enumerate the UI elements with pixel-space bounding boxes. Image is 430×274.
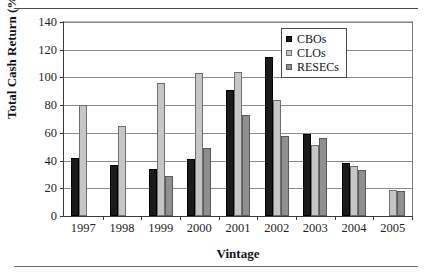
- x-tick-label: 2004: [342, 222, 367, 235]
- figure: Total Cash Return (%) 020406080100120140…: [0, 0, 430, 274]
- y-tick-label: 40: [45, 154, 58, 167]
- gridline: [64, 22, 412, 23]
- x-tick-mark: [219, 216, 220, 220]
- x-tick-label: 1998: [110, 222, 135, 235]
- gridline: [64, 50, 412, 51]
- x-tick-mark: [257, 216, 258, 220]
- y-tick-mark: [60, 50, 64, 51]
- y-tick-label: 60: [45, 127, 58, 140]
- bar-RESECs-2005: [397, 191, 405, 216]
- x-tick-label: 1999: [148, 222, 173, 235]
- bottom-rule: [14, 266, 418, 267]
- x-tick-mark: [335, 216, 336, 220]
- x-tick-label: 2002: [264, 222, 289, 235]
- bar-CLOs-1998: [118, 126, 126, 216]
- bar-RESECs-2001: [242, 115, 250, 216]
- y-axis-title: Total Cash Return (%): [4, 0, 20, 119]
- bar-CLOs-2000: [195, 73, 203, 216]
- bar-RESECs-2002: [281, 136, 289, 216]
- legend-label: RESECs: [297, 61, 339, 73]
- y-tick-mark: [60, 133, 64, 134]
- y-tick-mark: [60, 105, 64, 106]
- bar-RESECs-2004: [358, 170, 366, 216]
- top-rule: [14, 8, 418, 9]
- bar-CBOs-1998: [110, 165, 118, 216]
- x-tick-mark: [141, 216, 142, 220]
- bar-CBOs-1999: [149, 169, 157, 216]
- plot-area: 0204060801001201401997199819992000200120…: [63, 21, 413, 217]
- bar-CBOs-2002: [265, 57, 273, 216]
- x-tick-label: 2000: [187, 222, 212, 235]
- x-tick-label: 2001: [226, 222, 251, 235]
- y-tick-label: 80: [45, 99, 58, 112]
- legend-swatch-icon: [286, 36, 292, 42]
- y-tick-label: 120: [38, 43, 57, 56]
- bar-CBOs-2000: [187, 159, 195, 216]
- x-tick-mark: [103, 216, 104, 220]
- bar-CLOs-2002: [273, 100, 281, 216]
- bar-RESECs-2000: [203, 148, 211, 216]
- legend-item-CBOs: CBOs: [286, 32, 339, 46]
- x-tick-label: 2005: [380, 222, 405, 235]
- y-tick-label: 100: [38, 71, 57, 84]
- chart-legend: CBOsCLOsRESECs: [281, 28, 347, 78]
- bar-CLOs-1997: [79, 105, 87, 216]
- bar-CLOs-2001: [234, 72, 242, 216]
- legend-label: CLOs: [297, 47, 326, 59]
- legend-item-CLOs: CLOs: [286, 46, 339, 60]
- legend-label: CBOs: [297, 33, 326, 45]
- y-tick-mark: [60, 22, 64, 23]
- legend-swatch-icon: [286, 50, 292, 56]
- x-tick-mark: [180, 216, 181, 220]
- bar-CBOs-2003: [303, 134, 311, 216]
- legend-item-RESECs: RESECs: [286, 60, 339, 74]
- bar-RESECs-1999: [165, 176, 173, 216]
- x-tick-mark: [412, 216, 413, 220]
- bar-CLOs-1999: [157, 83, 165, 216]
- x-axis-title: Vintage: [63, 246, 413, 262]
- bar-CBOs-1997: [71, 158, 79, 216]
- x-tick-mark: [373, 216, 374, 220]
- y-tick-label: 0: [51, 210, 57, 223]
- bar-RESECs-2003: [319, 138, 327, 216]
- y-tick-mark: [60, 216, 64, 217]
- y-tick-mark: [60, 161, 64, 162]
- y-tick-label: 20: [45, 182, 58, 195]
- bar-CLOs-2005: [389, 190, 397, 216]
- bar-CBOs-2004: [342, 163, 350, 216]
- y-tick-label: 140: [38, 16, 57, 29]
- y-tick-mark: [60, 77, 64, 78]
- x-tick-label: 1997: [71, 222, 96, 235]
- y-tick-mark: [60, 188, 64, 189]
- legend-swatch-icon: [286, 64, 292, 70]
- bar-CLOs-2003: [311, 145, 319, 216]
- bar-CLOs-2004: [350, 166, 358, 216]
- x-tick-label: 2003: [303, 222, 328, 235]
- bar-CBOs-2001: [226, 90, 234, 216]
- x-tick-mark: [296, 216, 297, 220]
